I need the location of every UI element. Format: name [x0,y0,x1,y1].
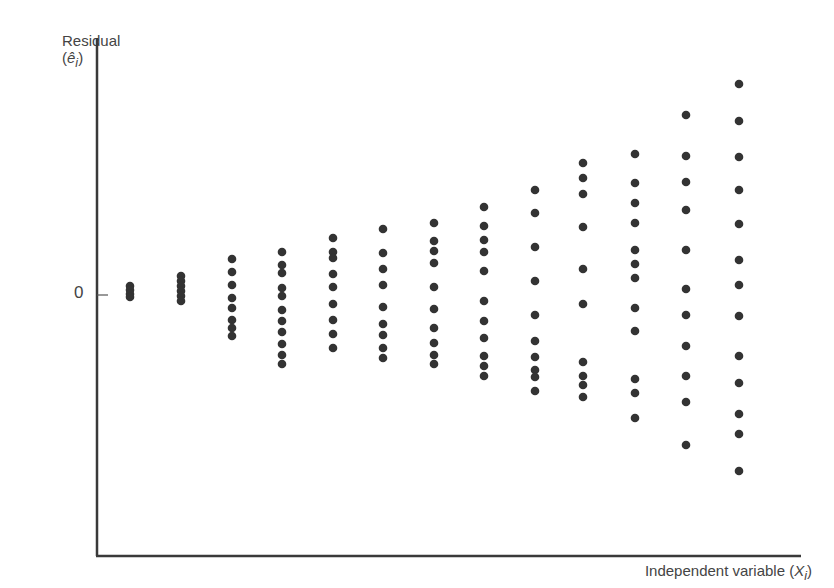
data-point [735,186,744,195]
data-point [278,328,287,337]
data-point [735,410,744,419]
data-point [228,304,237,313]
data-point [480,362,489,371]
data-point [480,372,489,381]
data-point [579,190,588,199]
data-point [379,320,388,329]
data-point [379,265,388,274]
data-point [631,246,640,255]
data-point [735,220,744,229]
data-point [480,317,489,326]
data-point [579,300,588,309]
data-point [531,186,540,195]
data-point [631,327,640,336]
data-point [631,150,640,159]
data-point [379,303,388,312]
data-point [531,311,540,320]
scatter-points [126,80,744,476]
data-point [531,337,540,346]
data-point [579,265,588,274]
data-point [735,467,744,476]
data-point [278,284,287,293]
data-point [682,152,691,161]
data-point [480,297,489,306]
data-point [329,330,338,339]
data-point [430,259,439,268]
data-point [631,179,640,188]
data-point [682,398,691,407]
data-point [379,344,388,353]
data-point [228,281,237,290]
data-point [531,373,540,382]
data-point [278,292,287,301]
data-point [735,312,744,321]
data-point [480,203,489,212]
data-point [430,305,439,314]
data-point [329,300,338,309]
data-point [177,297,186,306]
data-point [480,248,489,257]
data-point [579,223,588,232]
data-point [126,293,135,302]
data-point [735,379,744,388]
data-point [278,317,287,326]
data-point [735,117,744,126]
data-point [278,340,287,349]
data-point [430,283,439,292]
residual-plot: Residual (êi) 0 Independent variable (Xi… [0,0,834,588]
data-point [430,324,439,333]
data-point [531,243,540,252]
data-point [430,360,439,369]
data-point [278,248,287,257]
data-point [379,354,388,363]
data-point [579,159,588,168]
data-point [579,174,588,183]
data-point [631,414,640,423]
data-point [430,247,439,256]
data-point [631,274,640,283]
data-point [682,246,691,255]
data-point [379,249,388,258]
data-point [278,360,287,369]
data-point [228,332,237,341]
data-point [480,267,489,276]
data-point [682,111,691,120]
data-point [631,375,640,384]
data-point [278,269,287,278]
data-point [735,80,744,89]
data-point [430,339,439,348]
data-point [329,254,338,263]
data-point [682,342,691,351]
data-point [735,281,744,290]
data-point [631,199,640,208]
data-point [430,219,439,228]
data-point [735,352,744,361]
data-point [480,222,489,231]
data-point [682,285,691,294]
data-point [682,178,691,187]
data-point [228,294,237,303]
data-point [329,234,338,243]
data-point [228,268,237,277]
data-point [631,389,640,398]
data-point [631,219,640,228]
data-point [379,225,388,234]
data-point [682,441,691,450]
data-point [579,372,588,381]
data-point [228,316,237,325]
data-point [682,311,691,320]
data-point [735,153,744,162]
data-point [228,324,237,333]
data-point [579,381,588,390]
data-point [480,236,489,245]
data-point [430,351,439,360]
data-point [682,372,691,381]
data-point [631,260,640,269]
data-point [278,261,287,270]
data-point [480,352,489,361]
data-point [631,304,640,313]
data-point [579,393,588,402]
data-point [531,277,540,286]
data-point [735,256,744,265]
data-point [278,306,287,315]
